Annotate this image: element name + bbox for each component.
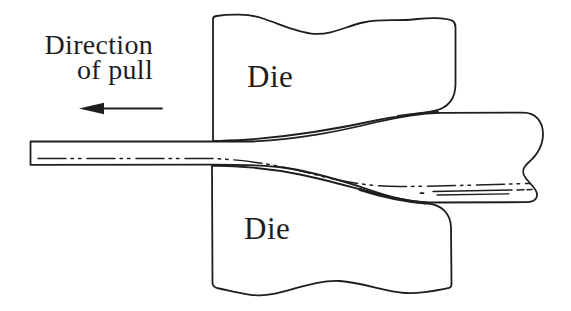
pull-arrow-head [79,103,104,114]
pull-arrow-icon [79,103,162,114]
figure-canvas: Direction of pull Die Die [0,0,571,311]
direction-of-pull-label-line2: of pull [77,54,153,85]
upper-die-label: Die [247,59,293,94]
lower-die-label: Die [244,211,290,246]
wire-drawing-diagram: Direction of pull Die Die [0,0,571,311]
